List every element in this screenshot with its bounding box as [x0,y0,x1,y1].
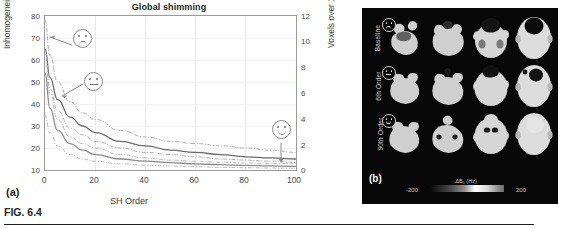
xtick: 0 [32,175,56,185]
panel-b-brain-maps: Baseline 6th Order [362,8,558,204]
sad-face-icon [382,18,396,32]
chart-title: Global shimming [104,2,234,12]
brain-slice [471,59,511,113]
brain-slice [514,107,554,161]
ytick-left: 30 [16,122,40,131]
neutral-face-icon [84,72,103,91]
row-label: 6th Order [375,71,382,100]
brain-slice [427,107,467,161]
y-axis-label-right: Voxels over 100 Hz (%) [326,0,336,48]
ytick-left: 50 [16,78,40,87]
sad-face-icon [73,29,92,48]
colorbar-gradient [428,185,504,192]
xtick: 60 [182,175,206,185]
ytick-right: 0 [301,166,321,175]
xtick: 80 [232,175,256,185]
ytick-left: 40 [16,100,40,109]
figure-caption: FIG. 6.4 [4,206,42,218]
ytick-left: 70 [16,34,40,43]
brain-slice [514,59,554,113]
xtick: 100 [282,175,306,185]
brain-slice [427,11,467,65]
brain-row: 90th Order [384,110,554,158]
brain-row: 6th Order [384,62,554,110]
ytick-right: 4 [301,115,321,124]
ytick-left: 60 [16,56,40,65]
figure-6-4: Global shimming 80 70 60 50 40 30 20 10 … [0,0,567,229]
colorbar-min-label: -200 [406,187,418,193]
panel-a-letter: (a) [6,186,19,198]
ytick-right: 6 [301,89,321,98]
colorbar-title: ΔB₀ (Hz) [406,178,526,184]
row-label: Baseline [374,25,381,52]
colorbar-max-label: 200 [516,187,526,193]
brain-slices [384,110,554,158]
brain-row-container: Baseline 6th Order [384,14,554,158]
happy-face-icon [272,120,291,139]
brain-slices [384,62,554,110]
caption-divider [4,224,534,225]
ytick-left: 20 [16,144,40,153]
ytick-right: 8 [301,63,321,72]
ytick-right: 12 [301,12,321,21]
brain-slices [384,14,554,62]
brain-slice [427,59,467,113]
y-axis-label-left: Inhomogeneity (Hz) [2,0,12,49]
panel-a-chart: Global shimming 80 70 60 50 40 30 20 10 … [0,0,340,229]
brain-slice [514,11,554,65]
brain-slice [471,107,511,161]
xtick: 20 [82,175,106,185]
neutral-face-icon [382,66,396,80]
colorbar: ΔB₀ (Hz) -200 200 [406,178,526,192]
panel-b-letter: (b) [369,173,382,184]
ytick-right: 2 [301,141,321,150]
ytick-left: 80 [16,12,40,21]
ytick-right: 10 [301,37,321,46]
happy-face-icon [382,114,396,128]
brain-slice [471,11,511,65]
brain-row: Baseline [384,14,554,62]
ytick-left: 10 [16,166,40,175]
x-axis-label: SH Order [110,196,148,206]
xtick: 40 [132,175,156,185]
